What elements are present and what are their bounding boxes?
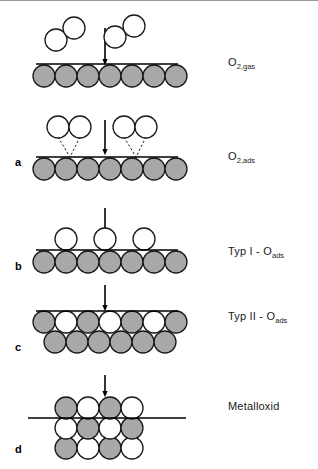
stage-oxide-atom-oxygen xyxy=(99,417,121,439)
o2-ads-right-dashed-bond xyxy=(124,137,136,157)
stage-ads-metal-atom xyxy=(99,158,121,180)
stage-typ1-metal-atom xyxy=(55,251,77,273)
stage-ads-metal-atom xyxy=(121,158,143,180)
panel-letter-c: c xyxy=(15,341,21,353)
stage-typ2-atom-metal xyxy=(154,331,176,353)
label-o2-ads: O2,ads xyxy=(228,150,255,165)
stage-ads-metal-atom xyxy=(55,158,77,180)
o2-ads-right-atom xyxy=(135,116,157,138)
o2-ads-right-dashed-bond xyxy=(136,137,146,157)
typ-2-oxygen-incorporated xyxy=(33,285,187,353)
stage-typ1-metal-atom xyxy=(99,251,121,273)
stage-typ1-metal-atom xyxy=(121,251,143,273)
stage-oxide-atom-oxygen xyxy=(121,437,143,459)
stage-ads-metal-atom xyxy=(143,158,165,180)
panel-letter-a: a xyxy=(15,156,21,168)
stage-typ1-oxygen-adatom xyxy=(133,228,155,250)
stage-ads-metal-atom xyxy=(33,158,55,180)
stage-typ2-atom-metal xyxy=(110,331,132,353)
stage-typ1-oxygen-adatom xyxy=(55,228,77,250)
o2-ads-left-atom xyxy=(47,116,69,138)
stage-typ1-metal-atom xyxy=(33,251,55,273)
stage-typ2-atom-metal xyxy=(77,311,99,333)
stage-oxide-atom-metal xyxy=(121,417,143,439)
stage-gas-metal-atom xyxy=(99,65,121,87)
typ-1-oxygen-adatoms xyxy=(33,208,187,273)
stage-gas-metal-atom xyxy=(121,65,143,87)
stage-typ2-atom-oxygen xyxy=(99,311,121,333)
stage-typ2-atom-metal xyxy=(33,311,55,333)
metal-oxide-lattice xyxy=(28,375,186,459)
stage-typ2-atom-metal xyxy=(44,331,66,353)
stage-gas-metal-atom xyxy=(143,65,165,87)
stage-typ1-oxygen-adatom xyxy=(94,228,116,250)
adsorption-stages-diagram xyxy=(0,0,318,469)
stage-oxide-atom-oxygen xyxy=(77,397,99,419)
stage-gas-metal-atom xyxy=(165,65,187,87)
o2-left-atom xyxy=(63,17,85,39)
o2-gas-approaching-surface xyxy=(33,15,187,87)
stage-oxide-atom-metal xyxy=(77,417,99,439)
o2-ads-left-dashed-bond xyxy=(70,137,80,157)
stage-typ2-atom-metal xyxy=(66,331,88,353)
stage-ads-metal-atom xyxy=(165,158,187,180)
o2-ads-left-atom xyxy=(69,116,91,138)
panel-letter-b: b xyxy=(15,260,22,272)
o2-right-atom xyxy=(123,15,145,37)
stage-typ1-metal-atom xyxy=(165,251,187,273)
stage-typ2-atom-oxygen xyxy=(55,311,77,333)
stage-oxide-atom-metal xyxy=(99,437,121,459)
stage-oxide-atom-oxygen xyxy=(77,437,99,459)
stage-typ2-atom-metal xyxy=(165,311,187,333)
o2-ads-left-dashed-bond xyxy=(58,137,70,157)
stage-oxide-atom-metal xyxy=(55,437,77,459)
figure-canvas: O2,gas O2,ads Typ I - Oads Typ II - Oads… xyxy=(0,0,318,469)
stage-typ1-metal-atom xyxy=(77,251,99,273)
stage-typ1-metal-atom xyxy=(143,251,165,273)
label-typ-1-oads: Typ I - Oads xyxy=(228,245,284,260)
o2-right-atom xyxy=(104,26,126,48)
stage-oxide-atom-metal xyxy=(99,397,121,419)
stage-typ2-atom-metal xyxy=(88,331,110,353)
stage-typ2-atom-metal xyxy=(132,331,154,353)
panel-letter-d: d xyxy=(15,443,22,455)
stage-gas-metal-atom xyxy=(55,65,77,87)
label-typ-2-oads: Typ II - Oads xyxy=(228,310,287,325)
stage-layer xyxy=(28,15,187,459)
stage-gas-metal-atom xyxy=(77,65,99,87)
stage-typ2-atom-oxygen xyxy=(143,311,165,333)
stage-gas-metal-atom xyxy=(33,65,55,87)
stage-oxide-atom-oxygen xyxy=(121,397,143,419)
o2-ads-right-atom xyxy=(113,116,135,138)
stage-ads-metal-atom xyxy=(77,158,99,180)
o2-adsorbed-on-surface xyxy=(33,116,187,180)
label-metalloxid: Metalloxid xyxy=(228,400,280,412)
stage-typ2-atom-metal xyxy=(121,311,143,333)
label-o2-gas: O2,gas xyxy=(228,56,255,71)
stage-oxide-atom-oxygen xyxy=(55,417,77,439)
stage-oxide-atom-metal xyxy=(55,397,77,419)
